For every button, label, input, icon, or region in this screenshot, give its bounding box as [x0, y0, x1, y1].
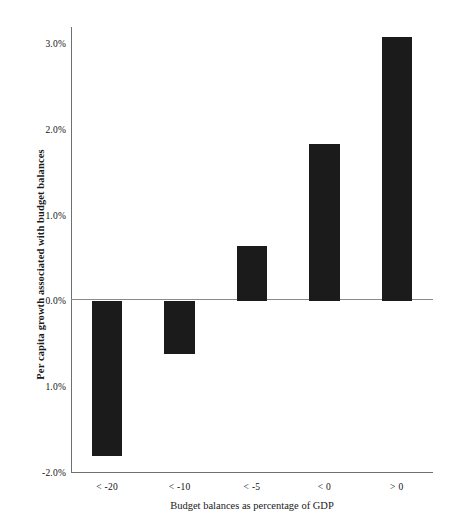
x-tick-label: < -10	[169, 482, 191, 492]
bar-slot	[237, 27, 267, 473]
bar-chart-figure: Per capita growth associated with budget…	[0, 0, 450, 529]
bar-slot	[309, 27, 339, 473]
x-tick-label: < 0	[318, 482, 331, 492]
y-axis-title: Per capita growth associated with budget…	[30, 0, 50, 529]
y-tick-label: 2.0%	[45, 125, 66, 135]
y-tick-label: 1.0%	[45, 382, 66, 392]
bar-slot	[382, 27, 412, 473]
bar-slot	[92, 27, 122, 473]
x-tick-label: < -5	[244, 482, 261, 492]
y-tick-label: 3.0%	[45, 39, 66, 49]
y-tick-label: -2.0%	[42, 468, 66, 478]
bar-slot	[164, 27, 194, 473]
bar[interactable]	[92, 301, 122, 455]
bar[interactable]	[382, 37, 412, 301]
plot-area: 3.0%2.0%1.0%0.0%1.0%-2.0% < -20< -10< -5…	[71, 27, 433, 473]
y-axis-spine	[71, 27, 72, 473]
bar[interactable]	[309, 144, 339, 302]
bar[interactable]	[164, 301, 194, 353]
x-tick-label: > 0	[390, 482, 403, 492]
y-tick-label: 0.0%	[45, 296, 66, 306]
x-tick-label: < -20	[96, 482, 118, 492]
x-axis-title: Budget balances as percentage of GDP	[71, 500, 433, 511]
y-tick-label: 1.0%	[45, 211, 66, 221]
bar[interactable]	[237, 246, 267, 302]
